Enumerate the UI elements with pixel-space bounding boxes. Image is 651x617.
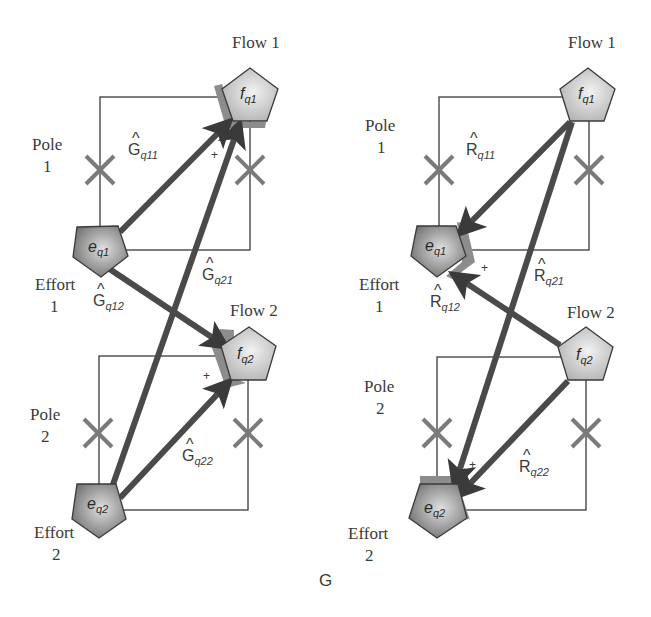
- svg-text:Gq12: Gq12: [93, 292, 124, 312]
- svg-text:Rq12: Rq12: [430, 293, 460, 313]
- node-f-q1: fq1: [222, 68, 278, 121]
- node-e-q2: eq2: [72, 484, 126, 538]
- node-e-q1: eq1: [73, 226, 128, 277]
- label-flow2: Flow 2: [230, 301, 278, 320]
- plus-sign: +: [211, 148, 218, 162]
- bond-graph-diagram: fq1 eq1 fq2 eq2 + + ^ Gq11 ^ Gq21 ^ Gq12: [0, 0, 651, 617]
- label-flow1: Flow 1: [568, 33, 616, 52]
- node-e-q2: eq2: [409, 484, 467, 538]
- label-pole1-num: 1: [377, 138, 386, 157]
- svg-text:Gq11: Gq11: [128, 141, 158, 161]
- label-flow2: Flow 2: [567, 303, 615, 322]
- svg-text:Rq22: Rq22: [519, 458, 549, 478]
- label-effort1-num: 1: [50, 297, 59, 316]
- edge-r12-arrow: [457, 277, 560, 345]
- gain-label-r12: ^ Rq12: [430, 282, 460, 313]
- node-f-q2: fq2: [558, 327, 613, 380]
- label-pole2-num: 2: [376, 399, 385, 418]
- plus-sign: +: [469, 458, 476, 472]
- label-effort2-num: 2: [52, 545, 61, 564]
- label-pole1: Pole: [32, 135, 62, 154]
- edge-r22-arrow: [462, 381, 568, 492]
- label-effort1: Effort: [35, 275, 76, 294]
- svg-text:Rq21: Rq21: [534, 267, 564, 287]
- label-pole1: Pole: [365, 116, 395, 135]
- label-effort1: Effort: [359, 275, 400, 294]
- label-effort2: Effort: [348, 524, 389, 543]
- gain-label-g12: ^ Gq12: [93, 281, 124, 312]
- label-effort2-num: 2: [365, 546, 374, 565]
- gain-label-g22: ^ Gq22: [182, 436, 213, 467]
- pole2-left-x-icon: [84, 419, 112, 447]
- label-pole2: Pole: [364, 377, 394, 396]
- node-f-q1: fq1: [560, 68, 615, 121]
- left-panel: fq1 eq1 fq2 eq2 + + ^ Gq11 ^ Gq21 ^ Gq12: [30, 33, 280, 564]
- svg-text:Gq21: Gq21: [202, 266, 233, 286]
- right-panel: fq1 eq1 fq2 eq2 + + ^ Rq11 ^ Rq21 ^ Rq12: [348, 33, 616, 565]
- svg-text:Rq11: Rq11: [466, 141, 495, 161]
- label-effort2: Effort: [34, 523, 75, 542]
- gain-label-r21: ^ Rq21: [534, 256, 564, 287]
- gain-label-r22: ^ Rq22: [519, 447, 549, 478]
- plus-sign: +: [203, 369, 210, 383]
- gain-label-g11: ^ Gq11: [128, 130, 158, 161]
- label-pole2-num: 2: [41, 427, 50, 446]
- svg-text:Gq22: Gq22: [182, 447, 213, 467]
- label-flow1: Flow 1: [232, 33, 280, 52]
- edge-g22-arrow: [120, 385, 226, 498]
- label-pole1-num: 1: [43, 157, 52, 176]
- label-effort1-num: 1: [375, 297, 384, 316]
- figure-caption: G: [319, 571, 332, 590]
- plus-sign: +: [481, 261, 488, 275]
- gain-label-g21: ^ Gq21: [202, 255, 233, 286]
- gain-label-r11: ^ Rq11: [466, 130, 495, 161]
- label-pole2: Pole: [30, 405, 60, 424]
